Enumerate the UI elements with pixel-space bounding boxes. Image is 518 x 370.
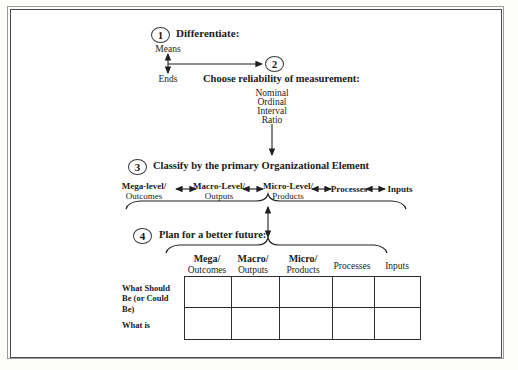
cell-is-mega[interactable] <box>185 308 232 340</box>
ends-label: Ends <box>159 74 178 84</box>
diagram-canvas: 1 Differentiate: Means Ends 2 Choose rel… <box>0 0 518 370</box>
step-1-heading: Differentiate: <box>176 28 239 40</box>
means-label: Means <box>155 44 180 54</box>
table-header-macro-line1: Macro/ <box>238 253 269 265</box>
org-element-mega-line1: Mega-level/ <box>122 181 166 191</box>
table-header-mega: Mega/ Outcomes <box>188 253 227 275</box>
org-element-processes: Processes <box>331 185 367 195</box>
table-header-micro: Micro/ Products <box>286 253 319 275</box>
cell-is-macro[interactable] <box>232 308 280 340</box>
cell-is-micro[interactable] <box>280 308 333 340</box>
cell-should-micro[interactable] <box>280 277 333 308</box>
row-label-what-should-be-line1: What Should <box>122 283 170 293</box>
org-element-mega-line2: Outcomes <box>122 191 166 201</box>
row-label-what-is: What is <box>122 320 150 330</box>
table-header-brace <box>166 238 387 253</box>
org-element-inputs: Inputs <box>387 185 412 195</box>
table-header-inputs-line1: Inputs <box>385 261 409 272</box>
step-2-heading: Choose reliability of measurement: <box>203 73 360 84</box>
step-3-heading: Classify by the primary Organizational E… <box>153 160 369 171</box>
table-header-micro-line1: Micro/ <box>286 253 319 265</box>
org-element-micro-line2: Products <box>263 191 313 201</box>
table-header-mega-line2: Outcomes <box>188 265 227 276</box>
step-number-1: 1 <box>151 27 170 43</box>
row-label-what-should-be-line3: Be) <box>122 304 170 314</box>
step-number-3: 3 <box>128 159 147 175</box>
step-number-2: 2 <box>265 56 284 72</box>
org-element-macro-line2: Outputs <box>193 191 245 201</box>
table-row <box>185 277 421 308</box>
org-element-macro: Macro-Level/ Outputs <box>193 181 245 201</box>
org-element-macro-line1: Macro-Level/ <box>193 181 245 191</box>
table-row <box>185 308 421 340</box>
step-number-4: 4 <box>133 228 152 244</box>
row-label-what-should-be: What Should Be (or Could Be) <box>122 283 170 314</box>
cell-is-inputs[interactable] <box>375 308 421 340</box>
scale-ratio: Ratio <box>262 115 283 125</box>
table-header-macro: Macro/ Outputs <box>238 253 269 275</box>
step-4-heading: Plan for a better future: <box>159 229 266 240</box>
org-element-micro-line1: Micro-Level/ <box>263 181 313 191</box>
cell-should-macro[interactable] <box>232 277 280 308</box>
table-header-macro-line2: Outputs <box>238 265 269 276</box>
cell-should-inputs[interactable] <box>375 277 421 308</box>
table-header-inputs: Inputs <box>385 261 409 272</box>
table-header-micro-line2: Products <box>286 265 319 276</box>
cell-is-processes[interactable] <box>333 308 375 340</box>
org-element-micro: Micro-Level/ Products <box>263 181 313 201</box>
planning-table <box>184 276 421 340</box>
table-header-mega-line1: Mega/ <box>188 253 227 265</box>
cell-should-mega[interactable] <box>185 277 232 308</box>
org-element-mega: Mega-level/ Outcomes <box>122 181 166 201</box>
cell-should-processes[interactable] <box>333 277 375 308</box>
row-label-what-should-be-line2: Be (or Could <box>122 293 170 303</box>
row-label-what-is-line1: What is <box>122 320 150 330</box>
table-header-processes: Processes <box>334 261 371 272</box>
table-header-processes-line1: Processes <box>334 261 371 272</box>
